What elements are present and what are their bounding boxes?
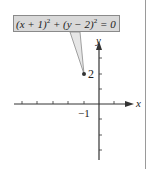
graph-figure: (x + 1)2 + (y − 2)2 = 0 y x 2 −1	[0, 0, 150, 169]
page-divider	[145, 0, 146, 169]
x-tick-label-neg1: −1	[78, 108, 90, 119]
x-axis-label: x	[136, 98, 141, 109]
equation-label: (x + 1)2 + (y − 2)2 = 0	[16, 17, 116, 30]
callout-pointer	[70, 32, 84, 74]
solution-point	[82, 72, 86, 76]
x-axis-arrow-icon	[125, 101, 134, 107]
y-axis-label: y	[96, 35, 101, 46]
y-tick-label-2: 2	[88, 68, 94, 80]
